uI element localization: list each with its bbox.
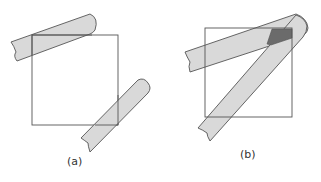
caption-a: (a) bbox=[67, 155, 82, 168]
figure-a bbox=[11, 14, 150, 152]
diagram-canvas bbox=[0, 0, 321, 182]
caption-b: (b) bbox=[240, 148, 256, 161]
strip-upper-a bbox=[11, 14, 96, 61]
figure-b bbox=[185, 14, 308, 141]
strip-lower-a bbox=[81, 79, 150, 152]
